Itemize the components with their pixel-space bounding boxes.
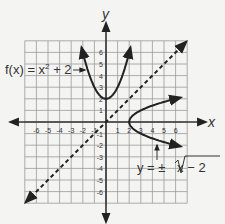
y-tick-label: -2: [97, 142, 103, 149]
x-tick-label: -2: [80, 127, 86, 134]
func2-label: y = ± x − 2: [137, 160, 206, 175]
x-tick-label: 4: [150, 127, 154, 134]
func1-label: f(x) = x2 + 2: [5, 62, 72, 77]
x-tick-label: 2: [127, 127, 131, 134]
y-tick-label: -4: [97, 165, 103, 172]
func1-label-rhs: + 2: [50, 62, 72, 77]
x-tick-label: -4: [56, 127, 62, 134]
x-tick-label: -6: [33, 127, 39, 134]
x-tick-label: 5: [162, 127, 166, 134]
graph-canvas: -6-5-4-3-2-1123456654321-1-2-3-4-5-6 x y…: [0, 0, 225, 224]
x-tick-label: 1: [116, 127, 120, 134]
y-tick-label: 4: [99, 73, 103, 80]
x-tick-label: -5: [45, 127, 51, 134]
func2-label-lhs: y = ±: [137, 160, 169, 175]
x-tick-label: -3: [68, 127, 74, 134]
y-tick-label: -6: [97, 189, 103, 196]
func1-label-lhs: f(x) = x: [5, 62, 46, 77]
y-tick-label: 5: [99, 61, 103, 68]
y-tick-label: 3: [99, 84, 103, 91]
x-tick-label: 6: [174, 127, 178, 134]
axes: [10, 23, 206, 222]
y-tick-label: -3: [97, 154, 103, 161]
y-tick-label: 6: [99, 49, 103, 56]
x-axis-label: x: [207, 114, 216, 130]
y-axis-label: y: [101, 6, 110, 22]
y-tick-label: -5: [97, 177, 103, 184]
y-tick-label: 1: [99, 107, 103, 114]
